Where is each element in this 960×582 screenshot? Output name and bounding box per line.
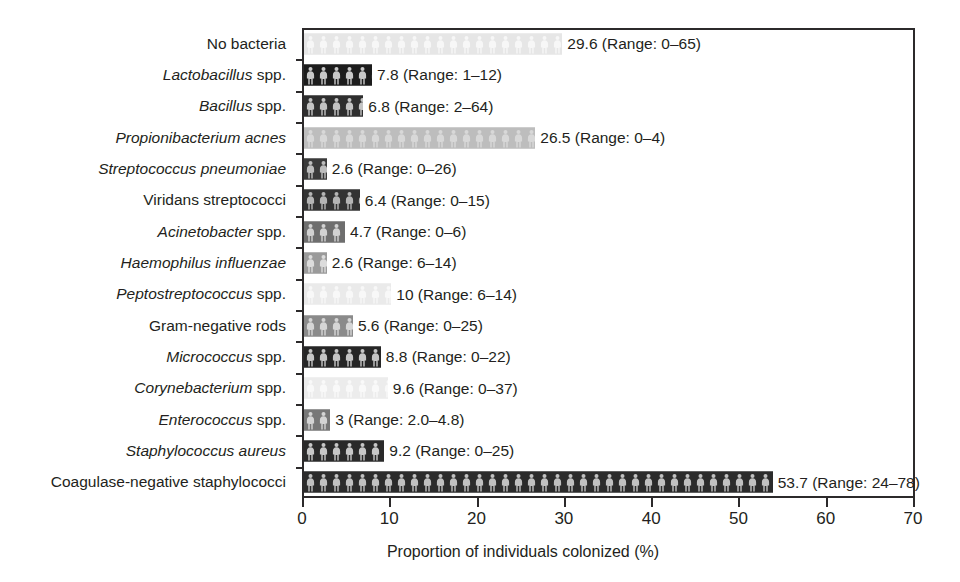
bar-group: 53.7 (Range: 24–78) bbox=[304, 472, 920, 493]
x-axis-tick bbox=[826, 498, 828, 507]
bar-value-label: 9.2 (Range: 0–25) bbox=[389, 442, 514, 460]
category-label-plain: spp. bbox=[252, 411, 286, 428]
x-axis-tick bbox=[564, 498, 566, 507]
category-label: Streptococcus pneumoniae bbox=[0, 160, 286, 178]
category-label-plain: spp. bbox=[252, 348, 286, 365]
bar[interactable] bbox=[304, 315, 353, 336]
bar[interactable] bbox=[304, 127, 535, 148]
bar[interactable] bbox=[304, 190, 360, 211]
bar-value-label: 6.8 (Range: 2–64) bbox=[368, 97, 493, 115]
bar[interactable] bbox=[304, 440, 384, 461]
x-axis-tick-label: 10 bbox=[380, 509, 399, 529]
y-axis-tick bbox=[296, 373, 304, 375]
category-label: Acinetobacter spp. bbox=[0, 223, 286, 241]
bar-group: 26.5 (Range: 0–4) bbox=[304, 127, 665, 148]
category-label-italic: Enterococcus bbox=[158, 411, 252, 428]
chart-row: Haemophilus influenzae2.6 (Range: 6–14) bbox=[0, 247, 960, 278]
chart-row: Lactobacillus spp.7.8 (Range: 1–12) bbox=[0, 59, 960, 90]
chart-row: Peptostreptococcus spp.10 (Range: 6–14) bbox=[0, 279, 960, 310]
category-label-italic: Corynebacterium bbox=[134, 379, 252, 396]
bar[interactable] bbox=[304, 33, 562, 54]
chart-row: Coagulase-negative staphylococci53.7 (Ra… bbox=[0, 467, 960, 498]
category-label: Gram-negative rods bbox=[0, 317, 286, 335]
bar[interactable] bbox=[304, 221, 345, 242]
chart-row: Gram-negative rods5.6 (Range: 0–25) bbox=[0, 310, 960, 341]
y-axis-tick bbox=[296, 310, 304, 312]
chart-row: Acinetobacter spp.4.7 (Range: 0–6) bbox=[0, 216, 960, 247]
category-label-plain: No bacteria bbox=[207, 35, 286, 52]
chart-row: No bacteria29.6 (Range: 0–65) bbox=[0, 28, 960, 59]
chart-row: Bacillus spp.6.8 (Range: 2–64) bbox=[0, 91, 960, 122]
chart-row: Micrococcus spp.8.8 (Range: 0–22) bbox=[0, 341, 960, 372]
bar[interactable] bbox=[304, 472, 773, 493]
bar-group: 6.8 (Range: 2–64) bbox=[304, 96, 493, 117]
category-label: Corynebacterium spp. bbox=[0, 379, 286, 397]
chart-row: Enterococcus spp.3 (Range: 2.0–4.8) bbox=[0, 404, 960, 435]
category-label: Peptostreptococcus spp. bbox=[0, 285, 286, 303]
bar-value-label: 2.6 (Range: 6–14) bbox=[332, 254, 457, 272]
category-label-italic: Micrococcus bbox=[166, 348, 252, 365]
y-axis-tick bbox=[296, 279, 304, 281]
bar-group: 6.4 (Range: 0–15) bbox=[304, 190, 490, 211]
category-label-italic: Streptococcus pneumoniae bbox=[98, 160, 286, 177]
bar-value-label: 5.6 (Range: 0–25) bbox=[358, 317, 483, 335]
bar-group: 3 (Range: 2.0–4.8) bbox=[304, 409, 464, 430]
bar-value-label: 4.7 (Range: 0–6) bbox=[350, 223, 466, 241]
bar[interactable] bbox=[304, 409, 330, 430]
y-axis-tick bbox=[296, 122, 304, 124]
x-axis-tick-label: 0 bbox=[297, 509, 306, 529]
category-label-italic: Bacillus bbox=[199, 97, 252, 114]
category-label: Staphylococcus aureus bbox=[0, 442, 286, 460]
y-axis-tick bbox=[296, 91, 304, 93]
x-axis-tick bbox=[302, 498, 304, 507]
x-axis-tick bbox=[389, 498, 391, 507]
bar[interactable] bbox=[304, 378, 388, 399]
bar-value-label: 9.6 (Range: 0–37) bbox=[393, 379, 518, 397]
y-axis-tick bbox=[296, 59, 304, 61]
category-label: Propionibacterium acnes bbox=[0, 129, 286, 147]
bar[interactable] bbox=[304, 346, 381, 367]
y-axis-tick bbox=[296, 435, 304, 437]
bar-group: 7.8 (Range: 1–12) bbox=[304, 64, 502, 85]
category-label-italic: Haemophilus influenzae bbox=[121, 254, 286, 271]
y-axis-tick bbox=[296, 341, 304, 343]
bar[interactable] bbox=[304, 64, 372, 85]
category-label-italic: Staphylococcus aureus bbox=[126, 442, 286, 459]
bar-value-label: 10 (Range: 6–14) bbox=[396, 285, 517, 303]
bar-group: 9.2 (Range: 0–25) bbox=[304, 440, 514, 461]
x-axis-tick bbox=[913, 498, 915, 507]
chart-row: Propionibacterium acnes26.5 (Range: 0–4) bbox=[0, 122, 960, 153]
bar[interactable] bbox=[304, 158, 327, 179]
chart-rows: No bacteria29.6 (Range: 0–65)Lactobacill… bbox=[0, 28, 960, 498]
x-axis-tick-label: 70 bbox=[904, 509, 923, 529]
category-label-plain: spp. bbox=[252, 97, 286, 114]
category-label-plain: spp. bbox=[252, 223, 286, 240]
x-axis-tick bbox=[477, 498, 479, 507]
bar-value-label: 2.6 (Range: 0–26) bbox=[332, 160, 457, 178]
category-label-plain: spp. bbox=[252, 66, 286, 83]
category-label: No bacteria bbox=[0, 35, 286, 53]
bar-group: 2.6 (Range: 6–14) bbox=[304, 252, 457, 273]
bar-value-label: 8.8 (Range: 0–22) bbox=[386, 348, 511, 366]
bar-value-label: 53.7 (Range: 24–78) bbox=[778, 473, 920, 491]
x-axis-tick-label: 20 bbox=[467, 509, 486, 529]
category-label-italic: Peptostreptococcus bbox=[116, 285, 252, 302]
bar[interactable] bbox=[304, 96, 363, 117]
bar-group: 9.6 (Range: 0–37) bbox=[304, 378, 518, 399]
x-axis-tick-label: 50 bbox=[729, 509, 748, 529]
category-label: Coagulase-negative staphylococci bbox=[0, 473, 286, 491]
bar[interactable] bbox=[304, 252, 327, 273]
bar-value-label: 7.8 (Range: 1–12) bbox=[377, 66, 502, 84]
bacterial-colonization-chart: No bacteria29.6 (Range: 0–65)Lactobacill… bbox=[0, 0, 960, 582]
category-label: Lactobacillus spp. bbox=[0, 66, 286, 84]
y-axis-tick bbox=[296, 467, 304, 469]
x-axis-tick bbox=[651, 498, 653, 507]
bar[interactable] bbox=[304, 284, 391, 305]
bar-group: 8.8 (Range: 0–22) bbox=[304, 346, 511, 367]
chart-row: Streptococcus pneumoniae2.6 (Range: 0–26… bbox=[0, 153, 960, 184]
bar-group: 29.6 (Range: 0–65) bbox=[304, 33, 701, 54]
bar-value-label: 3 (Range: 2.0–4.8) bbox=[335, 411, 464, 429]
category-label-plain: spp. bbox=[252, 285, 286, 302]
x-axis-tick-label: 40 bbox=[642, 509, 661, 529]
category-label-italic: Acinetobacter bbox=[158, 223, 253, 240]
